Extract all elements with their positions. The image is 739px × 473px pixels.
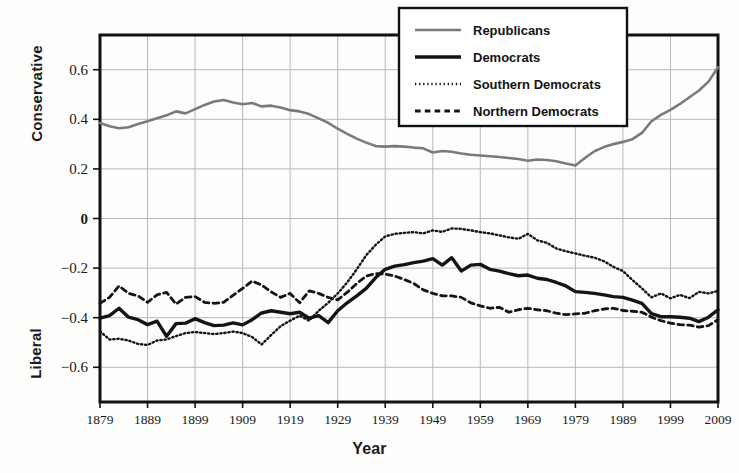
legend-label: Northern Democrats	[473, 104, 599, 119]
legend-label: Southern Democrats	[473, 77, 601, 92]
x-tick-label: 1949	[419, 412, 446, 427]
x-tick-label: 1899	[182, 412, 209, 427]
x-tick-label: 1929	[324, 412, 351, 427]
x-tick-label: 1989	[609, 412, 636, 427]
y-tick-label: −0.2	[61, 260, 88, 276]
y-tick-label: 0	[81, 211, 89, 227]
y-tick-label: 0.6	[69, 62, 88, 78]
x-tick-label: 1969	[514, 412, 541, 427]
legend-label: Republicans	[473, 23, 550, 38]
series-line	[100, 228, 718, 345]
y-tick-label: 0.4	[69, 111, 88, 127]
chart-plot-svg: 1879188918991909191919291939194919591969…	[0, 0, 739, 473]
x-axis-ticks: 1879188918991909191919291939194919591969…	[87, 402, 732, 427]
y-axis-bottom-label: Liberal	[27, 309, 44, 399]
x-tick-label: 1939	[372, 412, 399, 427]
x-tick-label: 1889	[134, 412, 161, 427]
y-tick-label: −0.4	[61, 310, 89, 326]
x-tick-label: 2009	[705, 412, 732, 427]
x-tick-label: 1979	[562, 412, 589, 427]
legend-label: Democrats	[473, 50, 540, 65]
series-line	[100, 258, 718, 337]
x-tick-label: 1919	[277, 412, 304, 427]
x-tick-label: 1909	[229, 412, 256, 427]
chart-legend: RepublicansDemocratsSouthern DemocratsNo…	[399, 8, 627, 126]
y-tick-label: −0.6	[61, 359, 89, 375]
x-tick-label: 1959	[467, 412, 494, 427]
x-axis-label: Year	[0, 440, 739, 458]
x-tick-label: 1879	[87, 412, 114, 427]
y-axis-top-label: Conservative	[28, 39, 45, 149]
y-tick-label: 0.2	[69, 161, 88, 177]
x-tick-label: 1999	[657, 412, 684, 427]
y-axis-ticks: 0.60.40.20−0.2−0.4−0.6	[61, 62, 100, 376]
chart-container: 1879188918991909191919291939194919591969…	[0, 0, 739, 473]
